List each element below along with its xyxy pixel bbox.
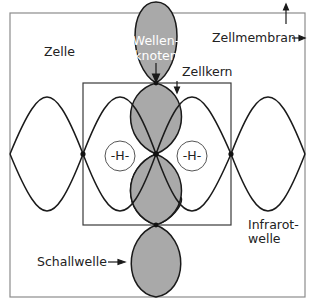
wave-node-label-line1: Wellen-: [131, 33, 181, 48]
hydrogen-left-label: -H-: [108, 149, 132, 163]
infrared-wave-label: Infrarot- welle: [248, 218, 299, 246]
lobe-upper: [131, 83, 182, 154]
lobe-bottom: [131, 225, 181, 297]
sound-wave-label: Schallwelle: [37, 255, 107, 269]
infrared-label-line2: welle: [248, 232, 299, 246]
infrared-label-line1: Infrarot-: [248, 218, 299, 232]
hydrogen-right-label: -H-: [180, 149, 204, 163]
cell-membrane-label: Zellmembran: [212, 31, 296, 45]
wave-node-label: Wellen- knoten: [131, 33, 181, 63]
nucleus-label: Zellkern: [182, 65, 233, 79]
cell-label: Zelle: [44, 45, 75, 59]
wave-node-label-line2: knoten: [131, 48, 181, 63]
